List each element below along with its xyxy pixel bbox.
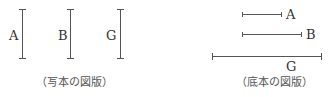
left-segment-a [19, 9, 26, 59]
left-caption: （写本の図版） [36, 77, 113, 89]
left-label-b: B [58, 29, 68, 42]
right-segment-a [242, 12, 282, 17]
right-caption: （底本の図版） [236, 77, 313, 89]
left-label-g: G [106, 29, 116, 42]
right-label-g: G [286, 60, 296, 73]
left-segment-g [117, 9, 124, 59]
left-segment-b [67, 9, 74, 59]
right-label-a: A [286, 8, 295, 21]
right-segment-b [242, 32, 302, 37]
right-label-b: B [306, 28, 316, 41]
left-label-a: A [9, 29, 18, 42]
right-segment-g [212, 53, 322, 60]
